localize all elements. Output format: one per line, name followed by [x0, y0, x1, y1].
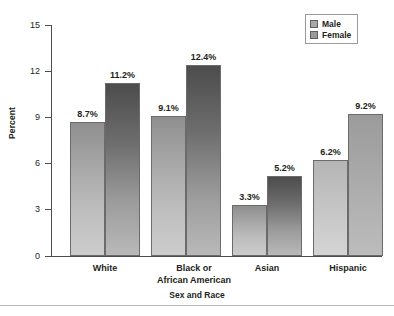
bar-female-black[interactable]	[186, 65, 221, 256]
x-category-label-hispanic: Hispanic	[311, 262, 385, 274]
chart-figure: Percent 0 3 6 9 12 15 8.7% 11.2% 9.1% 12…	[0, 0, 394, 316]
legend-swatch-male-icon	[310, 20, 318, 28]
plot-area: 8.7% 11.2% 9.1% 12.4% 3.3% 5.2% 6.2% 9.2…	[51, 25, 381, 256]
y-tick-label-9: 9	[0, 113, 40, 122]
bar-male-asian[interactable]	[232, 205, 267, 256]
y-axis-title: Percent	[7, 93, 17, 153]
bar-value-male-white: 8.7%	[60, 110, 115, 119]
bar-value-female-asian: 5.2%	[257, 164, 312, 173]
bar-value-male-asian: 3.3%	[222, 193, 277, 202]
bar-value-female-black: 12.4%	[176, 53, 231, 62]
x-category-label-white: White	[68, 262, 142, 274]
bar-male-hispanic[interactable]	[313, 160, 348, 256]
x-axis-title: Sex and Race	[0, 290, 394, 300]
bar-value-male-black: 9.1%	[141, 104, 196, 113]
legend: Male Female	[305, 14, 358, 44]
bar-value-female-white: 11.2%	[95, 71, 150, 80]
y-tick-label-15: 15	[0, 21, 40, 30]
y-tick-label-12: 12	[0, 67, 40, 76]
bar-female-white[interactable]	[105, 83, 140, 256]
x-axis-line	[51, 256, 382, 257]
bottom-divider	[0, 305, 394, 306]
legend-label-female: Female	[322, 30, 351, 40]
legend-label-male: Male	[322, 19, 341, 29]
bar-female-asian[interactable]	[267, 176, 302, 256]
bar-female-hispanic[interactable]	[348, 114, 383, 256]
bar-value-female-hispanic: 9.2%	[338, 102, 393, 111]
legend-item-male[interactable]: Male	[310, 18, 351, 29]
legend-item-female[interactable]: Female	[310, 29, 351, 40]
y-tick-label-0: 0	[0, 252, 40, 261]
y-tick-label-6: 6	[0, 159, 40, 168]
legend-swatch-female-icon	[310, 31, 318, 39]
y-tick-label-3: 3	[0, 205, 40, 214]
bar-male-black[interactable]	[151, 116, 186, 256]
y-tick-0	[45, 256, 51, 257]
bar-value-male-hispanic: 6.2%	[303, 148, 358, 157]
x-category-label-asian: Asian	[230, 262, 304, 274]
bar-male-white[interactable]	[70, 122, 105, 256]
